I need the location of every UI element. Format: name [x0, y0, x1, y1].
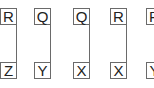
- card-2-connector: [50, 25, 51, 62]
- card-5: R Y: [146, 0, 154, 88]
- card-2-top-box: Q: [34, 8, 51, 25]
- card-4-top-box: R: [110, 8, 127, 25]
- card-4: R X: [110, 0, 128, 88]
- card-3-top-box: Q: [73, 8, 90, 25]
- card-1: R Z: [0, 0, 18, 88]
- card-1-connector: [16, 25, 17, 62]
- card-1-top-box: R: [0, 8, 17, 25]
- card-5-top-box: R: [146, 8, 154, 25]
- card-2: Q Y: [34, 0, 52, 88]
- card-2-bottom-box: Y: [34, 62, 51, 79]
- card-3-bottom-box: X: [73, 62, 90, 79]
- card-3: Q X: [73, 0, 91, 88]
- card-5-bottom-box: Y: [146, 62, 154, 79]
- card-3-connector: [89, 25, 90, 62]
- card-1-bottom-box: Z: [0, 62, 17, 79]
- card-4-bottom-box: X: [110, 62, 127, 79]
- card-4-connector: [126, 25, 127, 62]
